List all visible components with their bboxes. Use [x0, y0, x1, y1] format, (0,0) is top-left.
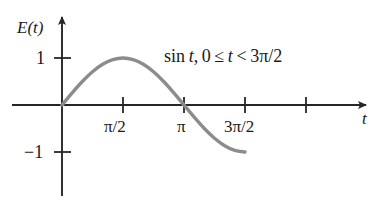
x-axis-label: t	[362, 110, 367, 127]
plot-canvas	[0, 0, 392, 202]
x-tick-label-pi-over-2: π/2	[104, 118, 126, 135]
annotation-lt-symbol: <	[236, 46, 246, 66]
sine-function-graph-figure: E(t) t 1 −1 π/2 π 3π/2 sin t, 0 ≤ t < 3π…	[0, 0, 392, 202]
y-tick-label-1: 1	[36, 49, 45, 67]
annotation-le-symbol: ≤	[214, 46, 224, 66]
annotation-lower-bound: 0	[202, 46, 211, 66]
annotation-upper-bound: 3π/2	[250, 46, 282, 66]
y-axis-label: E(t)	[17, 19, 43, 36]
y-tick-label-negative-1: −1	[24, 143, 43, 161]
annotation-function-name: sin	[164, 46, 185, 66]
function-annotation: sin t, 0 ≤ t < 3π/2	[164, 47, 282, 65]
x-tick-label-3pi-over-2: 3π/2	[224, 118, 254, 135]
x-tick-label-pi: π	[177, 118, 186, 135]
